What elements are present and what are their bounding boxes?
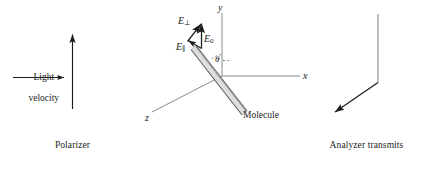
x-axis-label: x (303, 70, 307, 82)
e-parallel-subscript: ∥ (182, 45, 185, 53)
polarizer-caption: Polarizer transmits light vibrating in t… (0, 118, 145, 169)
e-parallel-label: E∥ (176, 41, 185, 54)
z-axis-label: z (145, 112, 149, 124)
analyzer-direction-arrow (335, 14, 378, 112)
light-velocity-label: Light velocity (13, 61, 65, 114)
y-axis-label: y (218, 2, 222, 14)
e-perp-subscript: ⊥ (184, 19, 190, 27)
e-zero-subscript: 0 (210, 37, 213, 45)
polarizer-caption-line-1: Polarizer (0, 140, 145, 151)
analyzer-caption-line-1: Analyzer transmits (312, 140, 421, 151)
polarization-figure: Light velocity Polarizer transmits light… (0, 0, 421, 169)
e-perp-label: E⊥ (178, 15, 191, 28)
molecule-label: Molecule (243, 110, 279, 121)
light-velocity-line2: velocity (28, 93, 59, 103)
theta-label: θ (215, 54, 219, 65)
coordinate-axes (152, 13, 300, 112)
light-velocity-line1: Light (33, 72, 54, 82)
analyzer-caption: Analyzer transmits light vibrating in th… (312, 118, 421, 169)
e-zero-label: E0 (204, 33, 213, 46)
